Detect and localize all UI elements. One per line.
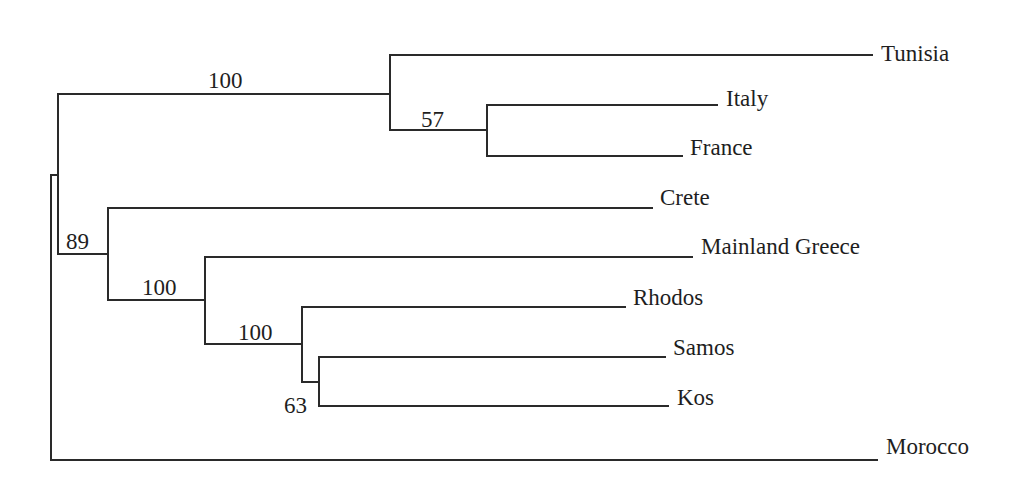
support-values: 100 57 89 100 100 63	[66, 68, 444, 418]
taxon-label-mainland-greece: Mainland Greece	[701, 234, 860, 259]
support-value-mainland-clade: 100	[142, 275, 177, 300]
support-value-italy-france: 57	[421, 107, 444, 132]
taxon-label-italy: Italy	[726, 86, 769, 111]
taxon-label-crete: Crete	[660, 185, 710, 210]
support-value-western-clade: 100	[208, 68, 243, 93]
support-value-greek-clade: 89	[66, 229, 89, 254]
taxon-label-samos: Samos	[673, 335, 734, 360]
taxon-label-tunisia: Tunisia	[881, 41, 949, 66]
support-value-samos-kos: 63	[284, 393, 307, 418]
taxon-label-kos: Kos	[677, 385, 714, 410]
taxon-label-rhodos: Rhodos	[633, 285, 703, 310]
taxon-label-france: France	[690, 135, 753, 160]
taxon-labels: Tunisia Italy France Crete Mainland Gree…	[633, 41, 969, 459]
taxon-label-morocco: Morocco	[886, 434, 969, 459]
phylogenetic-tree: Tunisia Italy France Crete Mainland Gree…	[0, 0, 1030, 488]
support-value-island-clade: 100	[238, 320, 273, 345]
